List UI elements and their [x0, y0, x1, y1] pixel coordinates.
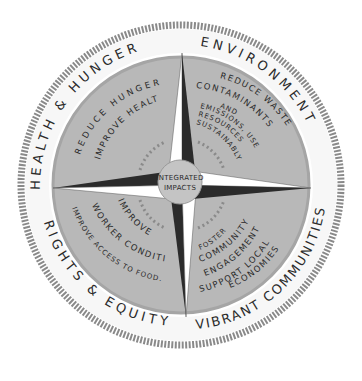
- compass-diagram: INTEGRATED IMPACTS HEALTH & HUNGER ENVIR…: [0, 0, 362, 381]
- center-label-line2: IMPACTS: [164, 184, 197, 192]
- center-label-line1: INTEGRATED: [156, 174, 203, 182]
- center-disk: [158, 160, 202, 204]
